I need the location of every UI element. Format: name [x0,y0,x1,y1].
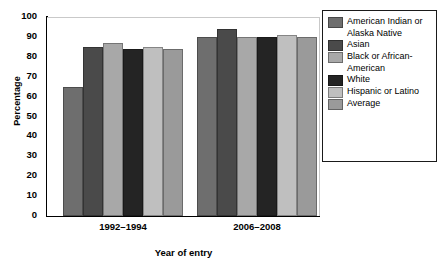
y-tick-label: 70 [26,70,37,81]
legend-swatch-icon [328,99,343,110]
bar [257,37,277,216]
bar [217,29,237,216]
bar [63,87,83,216]
bar [197,37,217,216]
legend-item[interactable]: Black or African-American [328,51,433,74]
bar [103,43,123,216]
chart-legend: American Indian or Alaska NativeAsianBla… [322,10,437,162]
y-tick-label: 0 [32,209,37,220]
bar [123,49,143,216]
bar-chart-figure: Percentage 0102030405060708090100 1992–1… [0,0,440,276]
y-tick-label: 90 [26,30,37,41]
y-tick-label: 50 [26,110,37,121]
x-tick-label: 2006–2008 [207,221,307,232]
x-tick-label: 1992–1994 [73,221,173,232]
legend-item[interactable]: Average [328,98,433,110]
legend-label: White [347,74,370,86]
bar [143,47,163,216]
y-tick-label: 100 [21,10,37,21]
legend-swatch-icon [328,75,343,86]
legend-label: Asian [347,39,370,51]
y-tick-label: 80 [26,50,37,61]
legend-item[interactable]: American Indian or Alaska Native [328,16,433,39]
plot-area [47,17,320,216]
legend-swatch-icon [328,52,343,63]
legend-swatch-icon [328,40,343,51]
legend-swatch-icon [328,17,343,28]
y-tick-label: 60 [26,90,37,101]
y-tick-label: 10 [26,189,37,200]
bar-group [197,17,317,216]
legend-label: Hispanic or Latino [347,86,419,98]
legend-item[interactable]: Hispanic or Latino [328,86,433,98]
y-tick-label: 30 [26,149,37,160]
legend-label: Black or African-American [347,51,433,74]
x-axis-title: Year of entry [47,247,320,258]
bar [163,49,183,216]
y-tick-label: 40 [26,129,37,140]
legend-label: Average [347,98,380,110]
legend-label: American Indian or Alaska Native [347,16,433,39]
legend-swatch-icon [328,87,343,98]
bar-group [63,17,183,216]
bar [297,37,317,216]
y-axis-title: Percentage [12,51,22,151]
bar [237,37,257,216]
legend-item[interactable]: White [328,74,433,86]
legend-item[interactable]: Asian [328,39,433,51]
y-tick-label: 20 [26,169,37,180]
bar [277,35,297,216]
bar [83,47,103,216]
